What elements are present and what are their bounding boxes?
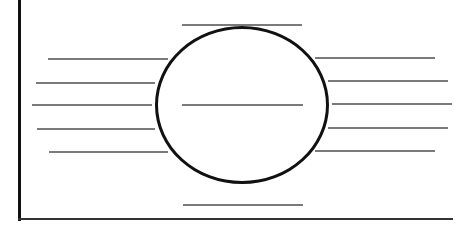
answer-line-bottom[interactable] xyxy=(183,204,303,206)
answer-line-right[interactable] xyxy=(315,150,435,152)
answer-line-left[interactable] xyxy=(48,58,168,60)
answer-line-top[interactable] xyxy=(182,24,302,26)
answer-line-center[interactable] xyxy=(182,104,303,106)
frame-bottom-border xyxy=(18,218,453,220)
answer-line-right[interactable] xyxy=(315,57,435,59)
answer-line-left[interactable] xyxy=(49,151,168,153)
answer-line-left[interactable] xyxy=(32,104,152,106)
answer-line-left[interactable] xyxy=(37,128,155,130)
graphic-organizer xyxy=(0,0,473,234)
answer-line-right[interactable] xyxy=(332,103,452,105)
answer-line-left[interactable] xyxy=(36,82,155,84)
answer-line-right[interactable] xyxy=(328,80,448,82)
frame-left-border xyxy=(18,0,21,221)
answer-line-right[interactable] xyxy=(328,127,448,129)
